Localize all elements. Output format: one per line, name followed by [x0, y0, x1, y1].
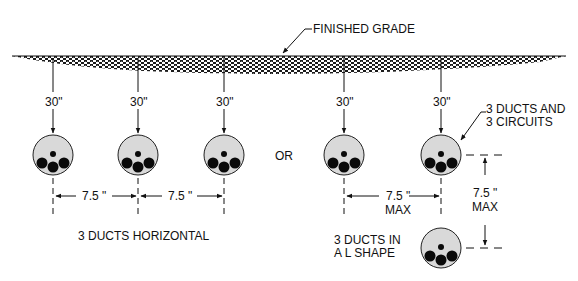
lshape-vertical-spacing-label: 7.5 " — [473, 186, 497, 200]
circuits-callout: 3 DUCTS AND 3 CIRCUITS — [461, 102, 566, 140]
circuits-label-line2: 3 CIRCUITS — [486, 115, 553, 129]
finished-grade-band — [12, 56, 566, 74]
depth-label-3: 30" — [216, 95, 234, 109]
lshape-horizontal-max-label: MAX — [385, 203, 411, 217]
depth-label-2: 30" — [130, 95, 148, 109]
duct-lshape-1 — [324, 135, 364, 175]
horizontal-spacing-dims — [53, 178, 224, 215]
duct-spacing-diagram: FINISHED GRADE 30" 30" 30" 30" 30" OR 3 … — [0, 0, 578, 281]
lshape-caption-line1: 3 DUCTS IN — [334, 233, 401, 247]
duct-lshape-2 — [421, 135, 461, 175]
spacing-label-1: 7.5 " — [82, 189, 106, 203]
or-label: OR — [275, 149, 293, 163]
duct-lshape-3 — [421, 228, 461, 268]
duct-horizontal-1 — [33, 135, 73, 175]
lshape-caption-line2: A L SHAPE — [334, 246, 395, 260]
lshape-vertical-max-label: MAX — [472, 200, 498, 214]
duct-horizontal-3 — [204, 135, 244, 175]
lshape-horizontal-spacing-label: 7.5 " — [386, 189, 410, 203]
horizontal-caption: 3 DUCTS HORIZONTAL — [78, 229, 209, 243]
depth-label-1: 30" — [45, 95, 63, 109]
circuits-label-line1: 3 DUCTS AND — [486, 102, 566, 116]
depth-label-5: 30" — [433, 95, 451, 109]
finished-grade-callout: FINISHED GRADE — [283, 22, 415, 53]
depth-label-4: 30" — [336, 95, 354, 109]
finished-grade-label: FINISHED GRADE — [313, 22, 415, 36]
spacing-label-2: 7.5 " — [168, 189, 192, 203]
duct-horizontal-2 — [118, 135, 158, 175]
